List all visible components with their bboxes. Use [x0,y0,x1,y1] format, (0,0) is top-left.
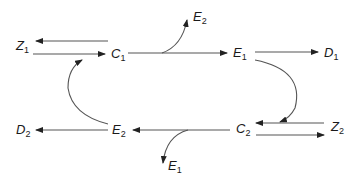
svg-text:D1: D1 [324,45,338,62]
node-c2: C2 [236,121,250,138]
svg-text:E1: E1 [168,158,182,175]
arrow-e1-to-c2 [255,60,297,122]
node-z1: Z1 [15,38,29,55]
node-e1-top: E1 [233,45,247,62]
svg-text:C1: C1 [111,46,125,63]
node-e1-bottom: E1 [168,158,182,175]
node-d1: D1 [324,45,338,62]
node-c1: C1 [111,46,125,63]
svg-text:E1: E1 [233,45,247,62]
arrow-e2-to-c1 [68,60,108,124]
svg-text:Z1: Z1 [15,38,29,55]
node-e2-top: E2 [193,9,207,26]
svg-text:D2: D2 [16,122,30,139]
arrow-branch-to-e2 [162,20,187,53]
svg-text:E2: E2 [193,9,207,26]
svg-text:E2: E2 [112,122,126,139]
svg-text:Z2: Z2 [330,119,344,136]
node-z2: Z2 [330,119,344,136]
svg-text:C2: C2 [236,121,250,138]
node-e2-bottom: E2 [112,122,126,139]
reaction-diagram: Z1 C1 E2 E1 D1 D2 E2 C2 Z2 E1 [0,0,357,180]
node-d2: D2 [16,122,30,139]
